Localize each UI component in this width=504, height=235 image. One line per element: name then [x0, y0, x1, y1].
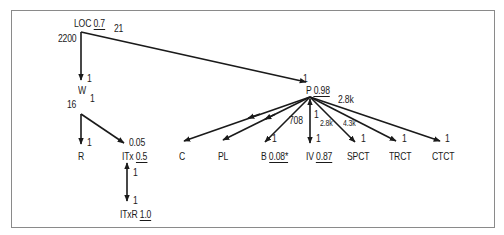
node-itxr-value: 1.0: [140, 208, 151, 221]
edge-p-ctct-from-label: 2.8k: [338, 93, 354, 105]
node-iv: IV 0.87: [306, 150, 332, 162]
edge-loc-p-from-label: 21: [114, 22, 123, 34]
edge-w-r-to-label: 1: [87, 136, 92, 148]
node-w: W: [78, 84, 86, 96]
node-b-value: 0.08*: [269, 150, 288, 163]
edge-w-itx-to-label: 0.05: [129, 136, 145, 148]
edge-p-b-to-label: 1: [272, 132, 277, 144]
edge-w-itx-from-label: 1: [90, 92, 95, 104]
edge-itx-itxr-to-label: 1: [133, 194, 138, 206]
node-loc: LOC 0.7: [74, 17, 105, 29]
edge-w-r-from-label: 16: [67, 98, 76, 110]
edge-loc-p: [81, 32, 306, 82]
node-spct: SPCT: [347, 150, 369, 162]
node-trct: TRCT: [389, 150, 411, 162]
edge-p-spct-to-label: 1: [361, 132, 366, 144]
node-loc-value: 0.7: [93, 17, 104, 30]
node-itx: ITx 0.5: [122, 150, 147, 162]
node-p-name: P: [306, 84, 311, 96]
node-ctct: CTCT: [432, 150, 454, 162]
edge-p-spct-from-label: 2.8k: [320, 117, 333, 129]
node-itx-value: 0.5: [136, 150, 147, 163]
node-iv-value: 0.87: [316, 150, 332, 163]
node-pl: PL: [218, 150, 228, 162]
edge-p-trct-from-label: 4.3k: [343, 117, 356, 129]
edge-itx-itxr-from-label: 1: [133, 166, 138, 178]
edge-loc-w-to-label: 1: [87, 72, 92, 84]
node-r: R: [78, 150, 84, 162]
node-p: P 0.98: [306, 84, 330, 96]
edge-loc-p-to-label: 1: [303, 72, 308, 84]
node-p-value: 0.98: [314, 84, 330, 97]
node-c: C: [179, 150, 185, 162]
edge-p-iv-from-label: 1: [314, 108, 319, 120]
node-loc-name: LOC: [74, 17, 91, 29]
node-itx-name: ITx: [122, 150, 133, 162]
node-iv-name: IV: [306, 150, 314, 162]
edge-p-ctct-to-label: 1: [445, 132, 450, 144]
edge-p-trct-to-label: 1: [402, 132, 407, 144]
edge-p-iv-to-label: 1: [316, 132, 321, 144]
node-b-name: B: [261, 150, 267, 162]
node-itxr: ITxR 1.0: [120, 208, 151, 220]
node-b: B 0.08*: [261, 150, 288, 162]
edge-p-b-from-label: 708: [289, 114, 303, 126]
node-itxr-name: ITxR: [120, 208, 138, 220]
edge-loc-w-from-label: 2200: [58, 32, 77, 44]
